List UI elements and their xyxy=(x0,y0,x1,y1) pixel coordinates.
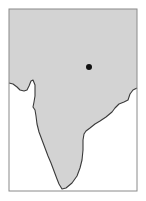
location-marker-dot xyxy=(86,64,92,70)
map-figure xyxy=(0,0,146,201)
